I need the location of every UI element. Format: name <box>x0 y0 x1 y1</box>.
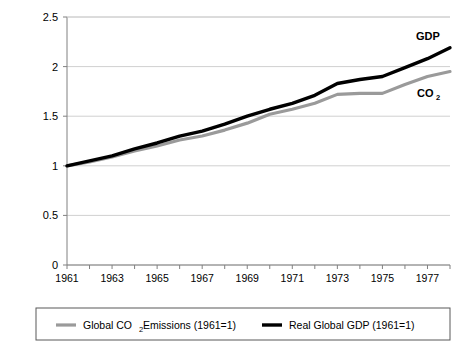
legend-label-co2-part1: Global CO <box>83 319 132 331</box>
legend-label-co2-part2: Emissions (1961=1) <box>143 319 236 331</box>
x-axis-tick-label: 1971 <box>281 272 305 284</box>
gdp-annotation-label: GDP <box>416 30 440 42</box>
y-axis-tick-label: 0 <box>52 259 58 271</box>
co2-annotation-subscript: 2 <box>436 93 440 102</box>
legend-label-gdp-part1: Real Global GDP (1961=1) <box>289 319 415 331</box>
x-axis-tick-label: 1973 <box>326 272 350 284</box>
line-chart: 00.511.522.5 196119631965196719691971197… <box>0 0 470 349</box>
x-axis-tick-label: 1963 <box>100 272 124 284</box>
x-axis-tick-labels: 196119631965196719691971197319751977 <box>55 272 439 284</box>
x-axis-tick-label: 1977 <box>416 272 440 284</box>
y-axis-tick-label: 1.5 <box>43 110 58 122</box>
y-axis-tick-label: 2.5 <box>43 11 58 23</box>
y-axis-tick-label: 2 <box>52 61 58 73</box>
y-axis-tick-label: 0.5 <box>43 209 58 221</box>
plot-area-background <box>67 17 450 265</box>
co2-annotation-label: CO <box>417 87 434 99</box>
x-axis-tick-label: 1975 <box>371 272 395 284</box>
legend: Global CO 2 Emissions (1961=1) Real Glob… <box>36 308 450 340</box>
x-axis-tick-label: 1969 <box>236 272 260 284</box>
y-axis-tick-label: 1 <box>52 160 58 172</box>
x-axis-tick-label: 1965 <box>145 272 169 284</box>
chart-container: 00.511.522.5 196119631965196719691971197… <box>0 0 470 349</box>
x-axis-tick-label: 1967 <box>190 272 214 284</box>
x-axis-tick-label: 1961 <box>55 272 79 284</box>
